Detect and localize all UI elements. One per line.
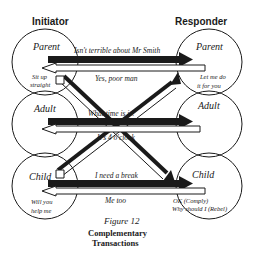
responder-child-note-1: OK (Comply) [173,197,208,205]
adult-response-text: It's 4 o'clock [96,133,135,142]
parent-response-text: Yes, poor man [95,74,138,83]
responder-parent-note-2: it for you [197,82,222,89]
complementary-transactions-diagram: Initiator Responder [0,0,256,265]
initiator-child-label: Child [29,171,52,182]
initiator-child-note-2: help me [31,207,52,214]
initiator-parent-note-2: straight [30,81,50,88]
responder-parent-note-1: Let me do [199,73,226,80]
child-stimulus-text: I need a break [94,171,138,180]
initiator-parent-note-1: Sit up [32,73,48,80]
parent-transaction-arrows [42,52,205,73]
child-response-text: Me too [104,196,126,205]
adult-stimulus-text: What time is it? [88,109,136,118]
caption-title-line2: Transactions [92,238,139,248]
responder-parent-label: Parent [195,41,223,52]
initiator-adult-label: Adult [33,103,56,114]
parent-stimulus-text: Isn't terrible about Mr Smith [73,46,160,55]
responder-child-label: Child [192,169,215,180]
responder-child-note-2: Why should I (Rebel) [172,205,227,213]
figure-number: Figure 12 [103,216,140,226]
initiator-parent-label: Parent [32,41,60,52]
initiator-header: Initiator [32,16,69,27]
responder-adult-label: Adult [197,100,220,111]
responder-header: Responder [175,16,227,27]
caption-title-line1: Complementary [88,228,148,238]
initiator-child-note-1: Will you [31,198,53,205]
